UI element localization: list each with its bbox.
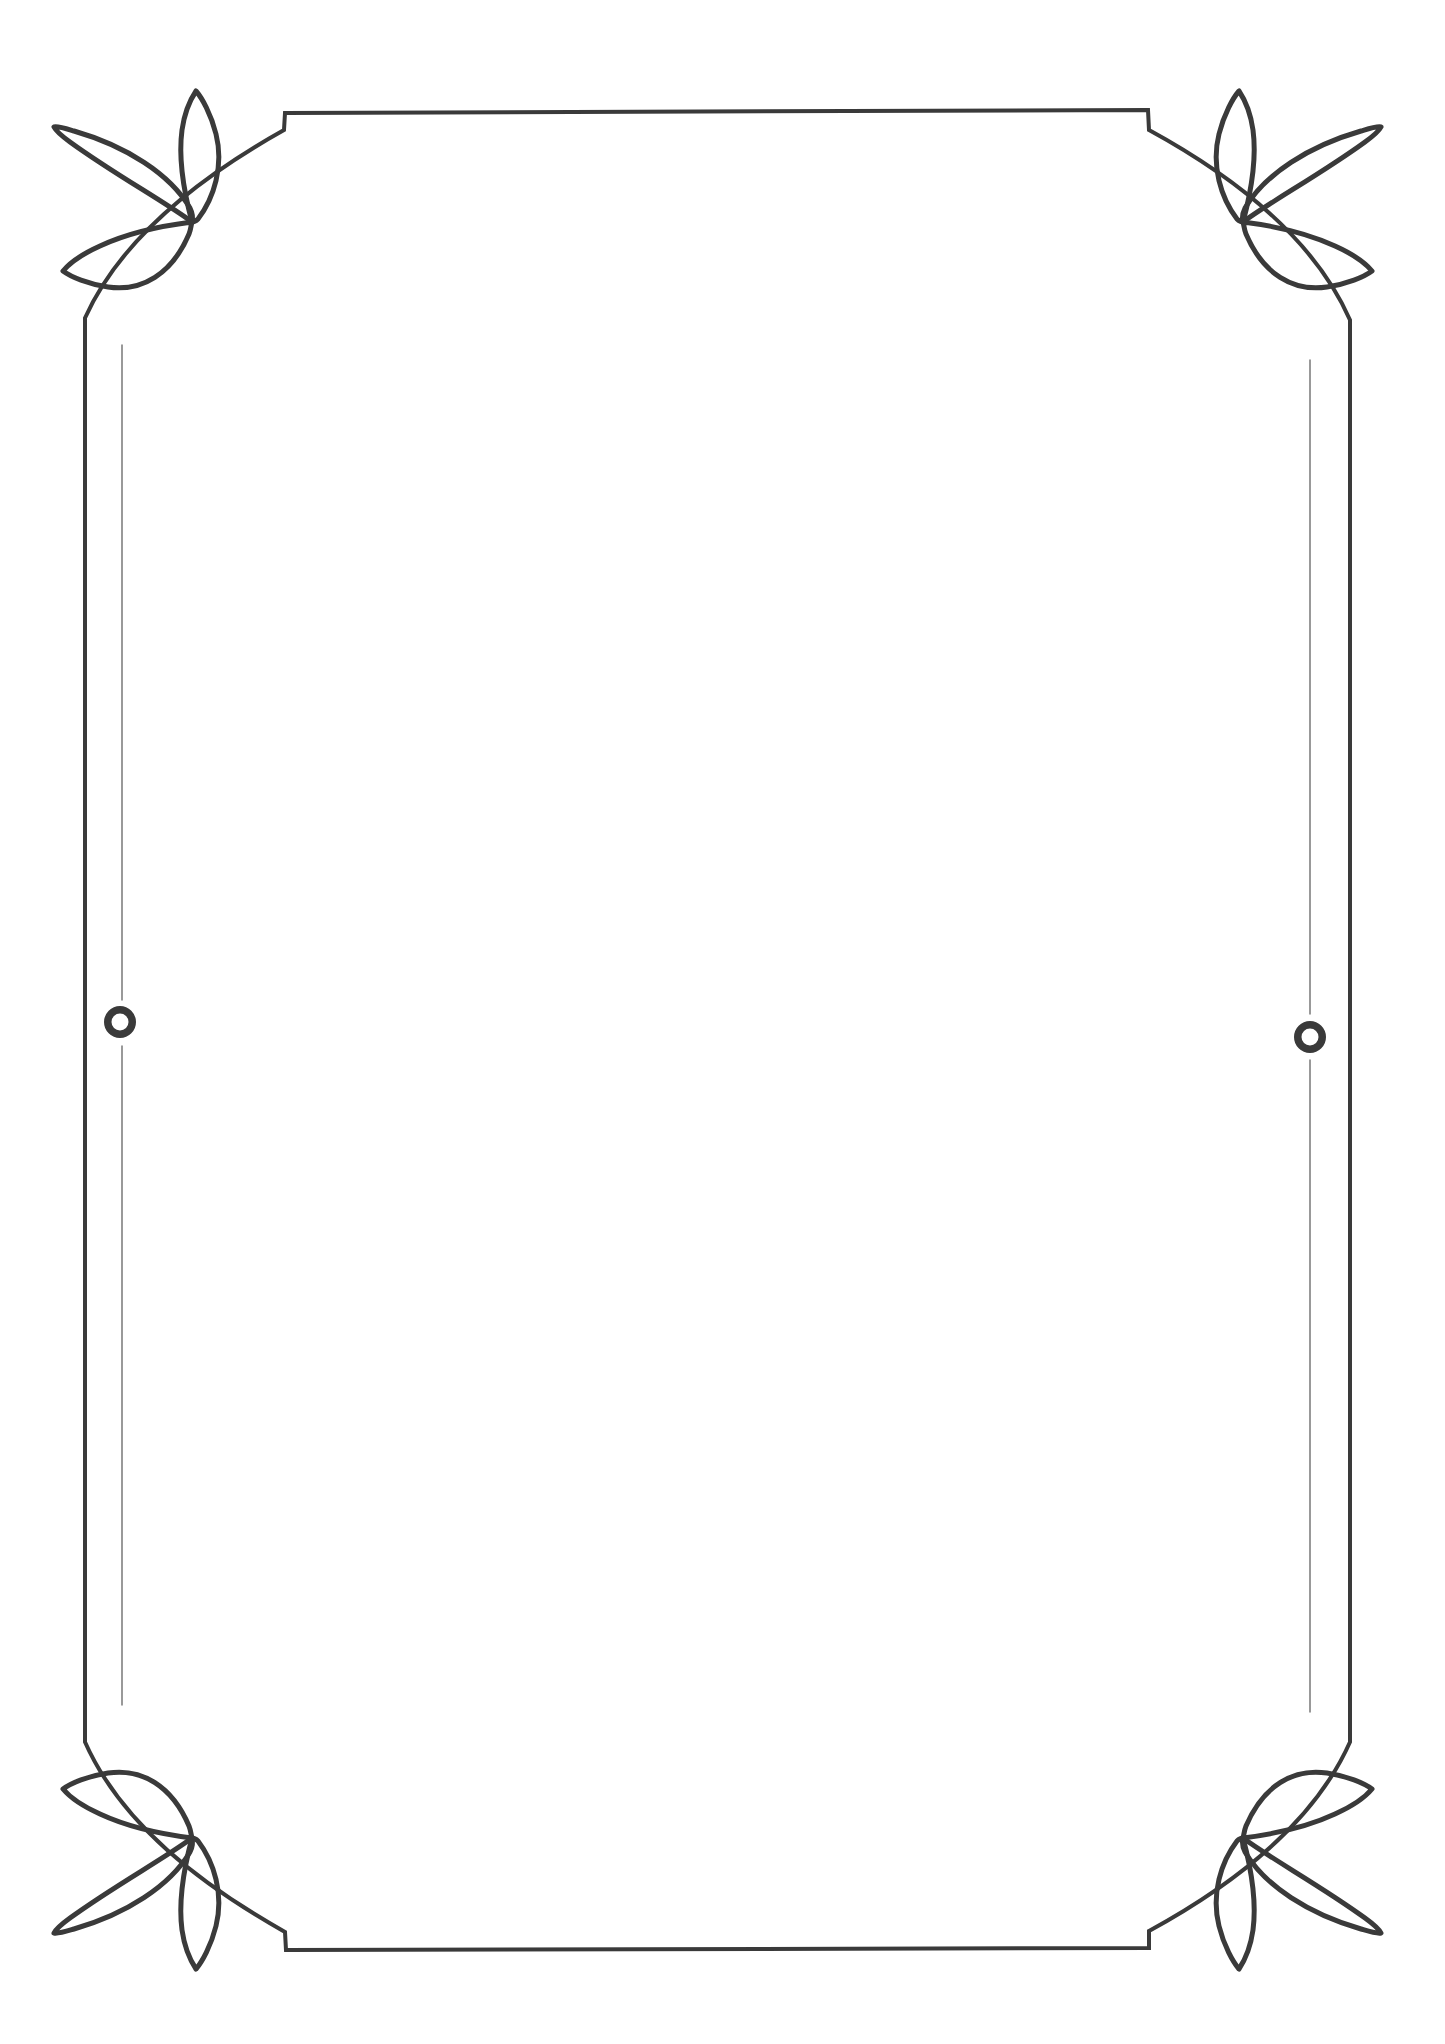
decorative-border-illustration bbox=[0, 0, 1445, 2044]
right-ring-accent bbox=[1298, 1025, 1323, 1050]
outer-frame-border bbox=[85, 110, 1350, 1950]
page-canvas bbox=[0, 0, 1445, 2044]
left-ring-accent bbox=[108, 1010, 133, 1035]
frame-group bbox=[54, 91, 1381, 1969]
